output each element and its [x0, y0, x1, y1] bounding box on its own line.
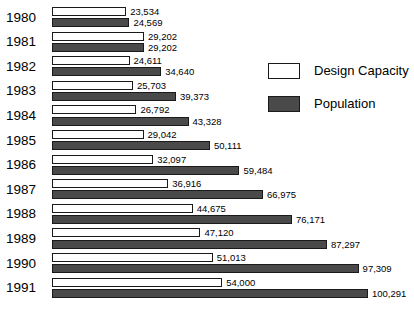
bar-row: 24,569	[0, 18, 414, 27]
bar-population	[52, 215, 292, 224]
bar-row: 76,171	[0, 215, 414, 224]
bar-population	[52, 166, 239, 175]
bar-population	[52, 43, 144, 52]
bar-value-label: 39,373	[180, 92, 209, 101]
year-group: 198529,04250,111	[0, 130, 414, 155]
bar-population	[52, 264, 359, 273]
bar-value-label: 44,675	[197, 204, 226, 213]
bar-design-capacity	[52, 7, 126, 16]
bar-row: 25,703	[0, 81, 414, 90]
bar-row: 29,202	[0, 43, 414, 52]
bar-value-label: 29,202	[148, 32, 177, 41]
bar-value-label: 50,111	[214, 141, 242, 150]
year-group: 199154,000100,291	[0, 278, 414, 303]
bar-population	[52, 190, 263, 199]
bar-value-label: 24,569	[133, 18, 162, 27]
bar-row: 51,013	[0, 253, 414, 262]
year-group: 198844,67576,171	[0, 204, 414, 229]
bar-row: 59,484	[0, 166, 414, 175]
year-group: 198632,09759,484	[0, 155, 414, 180]
year-group: 199051,01397,309	[0, 253, 414, 278]
bar-value-label: 47,120	[204, 228, 233, 237]
bar-row: 87,297	[0, 240, 414, 249]
bar-value-label: 26,792	[140, 105, 169, 114]
bar-value-label: 23,534	[130, 7, 159, 16]
bar-value-label: 87,297	[331, 240, 360, 249]
bar-chart: 198023,53424,569198129,20229,202198224,6…	[0, 0, 414, 312]
bar-row: 23,534	[0, 7, 414, 16]
bar-row: 36,916	[0, 179, 414, 188]
bar-value-label: 32,097	[157, 155, 186, 164]
bar-design-capacity	[52, 179, 168, 188]
bar-value-label: 43,328	[193, 117, 222, 126]
bar-design-capacity	[52, 155, 153, 164]
bar-design-capacity	[52, 81, 133, 90]
year-group: 198023,53424,569	[0, 7, 414, 32]
bar-value-label: 76,171	[296, 215, 325, 224]
bar-design-capacity	[52, 228, 200, 237]
bar-value-label: 59,484	[243, 166, 272, 175]
bar-row: 97,309	[0, 264, 414, 273]
bar-design-capacity	[52, 130, 144, 139]
bar-row: 50,111	[0, 141, 414, 150]
bar-row: 43,328	[0, 117, 414, 126]
bar-value-label: 24,611	[134, 56, 162, 65]
bar-design-capacity	[52, 253, 213, 262]
legend-label: Design Capacity	[314, 63, 409, 79]
year-group: 198129,20229,202	[0, 32, 414, 57]
bar-value-label: 54,000	[226, 278, 255, 287]
bar-row: 44,675	[0, 204, 414, 213]
bar-design-capacity	[52, 278, 222, 287]
bar-row: 100,291	[0, 289, 414, 298]
plot-area: 198023,53424,569198129,20229,202198224,6…	[0, 0, 414, 312]
bar-value-label: 36,916	[172, 179, 201, 188]
bar-population	[52, 240, 327, 249]
bar-value-label: 34,640	[165, 67, 194, 76]
bar-value-label: 97,309	[363, 264, 392, 273]
bar-row: 29,042	[0, 130, 414, 139]
bar-population	[52, 18, 129, 27]
legend-swatch-capacity	[268, 63, 300, 79]
bar-population	[52, 117, 189, 126]
legend-label: Population	[314, 96, 375, 112]
bar-design-capacity	[52, 32, 144, 41]
bar-design-capacity	[52, 56, 130, 65]
bar-value-label: 66,975	[267, 190, 296, 199]
bar-value-label: 25,703	[137, 81, 166, 90]
bar-row: 54,000	[0, 278, 414, 287]
bar-row: 66,975	[0, 190, 414, 199]
bar-value-label: 100,291	[372, 289, 406, 298]
bar-design-capacity	[52, 204, 193, 213]
bar-value-label: 29,202	[148, 43, 177, 52]
bar-population	[52, 92, 176, 101]
bar-population	[52, 289, 368, 298]
year-group: 198736,91666,975	[0, 179, 414, 204]
bar-population	[52, 67, 161, 76]
bar-row: 29,202	[0, 32, 414, 41]
bar-population	[52, 141, 210, 150]
year-group: 198947,12087,297	[0, 228, 414, 253]
bar-value-label: 29,042	[148, 130, 177, 139]
bar-row: 32,097	[0, 155, 414, 164]
legend-swatch-population	[268, 96, 300, 112]
bar-design-capacity	[52, 105, 136, 114]
bar-row: 47,120	[0, 228, 414, 237]
bar-value-label: 51,013	[217, 253, 246, 262]
